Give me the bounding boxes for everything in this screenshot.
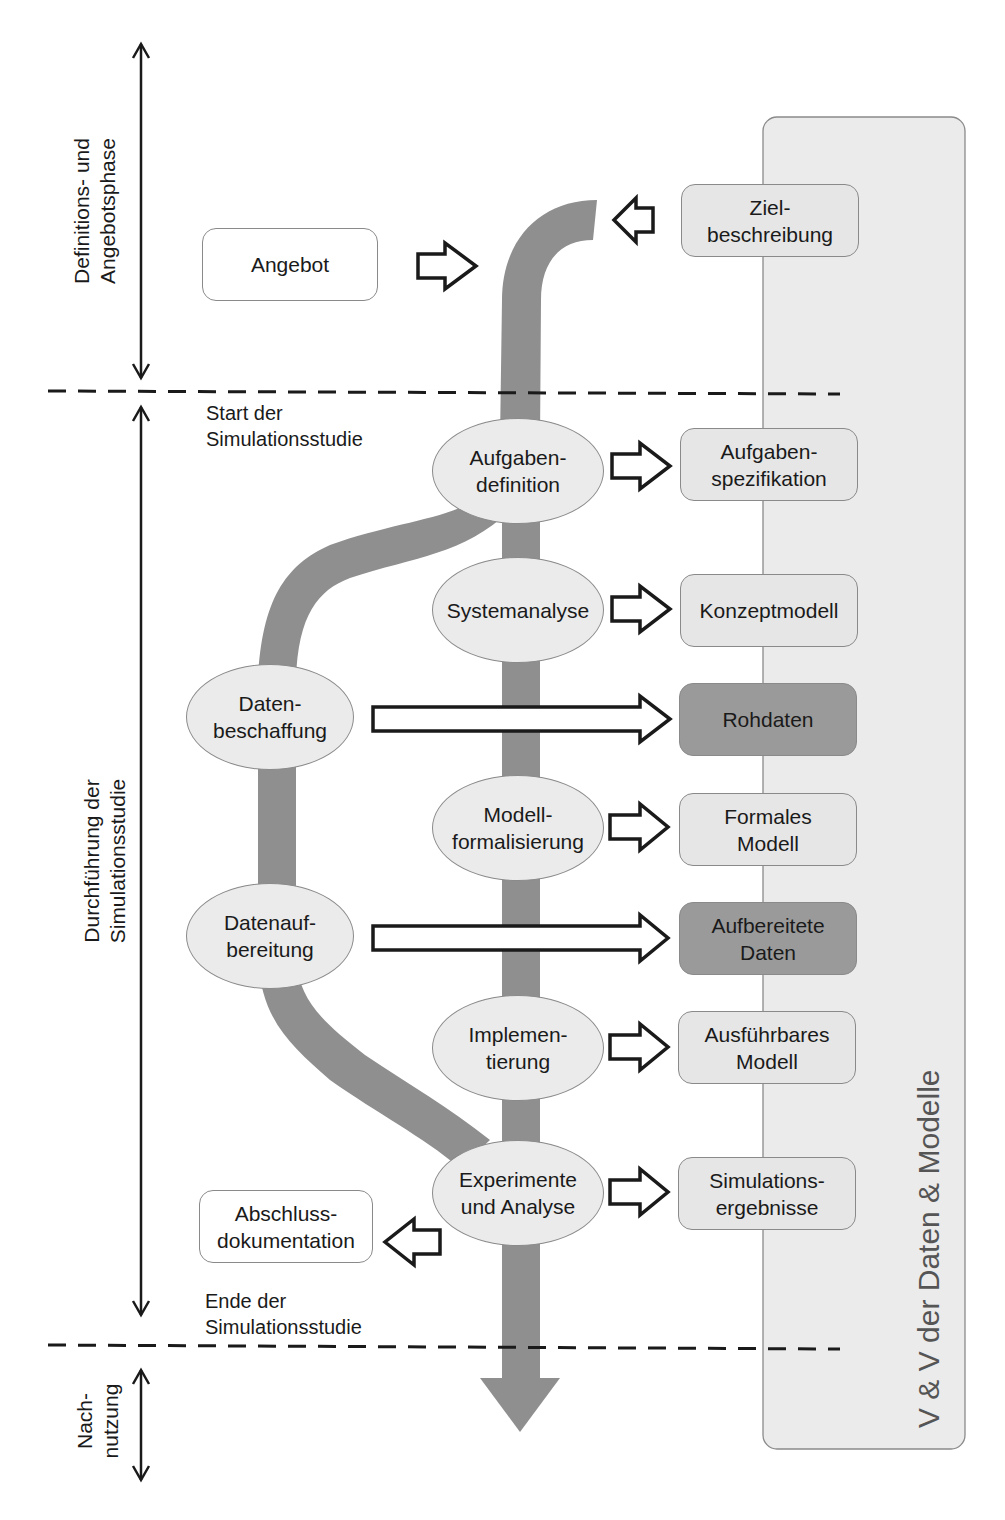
step-modellformalisierung: Modell- formalisierung xyxy=(432,775,604,881)
milestone-start: Start der Simulationsstudie xyxy=(206,400,363,452)
phase-arrow-definition xyxy=(133,44,149,378)
phase-arrow-execution xyxy=(133,407,149,1315)
main-flow-arrowhead xyxy=(480,1378,560,1432)
step-aufgabendefinition: Aufgaben- definition xyxy=(432,418,604,524)
phase-separator-top xyxy=(48,391,840,394)
vv-panel-label: V & V der Daten & Modelle xyxy=(912,1028,948,1428)
arrow-modellformalisierung xyxy=(610,804,668,850)
step-datenbeschaffung: Daten- beschaffung xyxy=(186,664,354,770)
result-rohdaten: Rohdaten xyxy=(679,683,857,756)
main-flow-top-curve xyxy=(500,200,597,440)
step-implementierung: Implemen- tierung xyxy=(432,995,604,1101)
step-systemanalyse: Systemanalyse xyxy=(432,557,604,663)
phase-label-nachnutzung: Nach- nutzung xyxy=(72,1371,124,1471)
milestone-end: Ende der Simulationsstudie xyxy=(205,1288,362,1340)
box-angebot: Angebot xyxy=(202,228,378,301)
arrow-aufgabendefinition xyxy=(612,443,670,489)
result-aufgabenspezifikation: Aufgaben- spezifikation xyxy=(680,428,858,501)
phase-label-execution: Durchführung der Simulationsstudie xyxy=(79,751,131,971)
arrow-experimente xyxy=(610,1169,668,1215)
result-simulationsergebnisse: Simulations- ergebnisse xyxy=(678,1157,856,1230)
box-zielbeschreibung: Ziel- beschreibung xyxy=(681,184,859,257)
arrow-ziel-to-flow xyxy=(614,198,653,242)
phase-separator-bottom xyxy=(48,1345,840,1349)
phase-arrow-nachnutzung xyxy=(133,1370,149,1480)
step-datenaufbereitung: Datenauf- bereitung xyxy=(186,883,354,989)
box-abschlussdokumentation: Abschluss- dokumentation xyxy=(199,1190,373,1263)
step-experimente: Experimente und Analyse xyxy=(432,1140,604,1246)
arrow-systemanalyse xyxy=(612,586,670,632)
arrow-angebot-to-flow xyxy=(418,243,476,289)
arrow-implementierung xyxy=(610,1024,668,1070)
phase-label-definition: Definitions- und Angebotsphase xyxy=(69,111,121,311)
result-konzeptmodell: Konzeptmodell xyxy=(680,574,858,647)
result-aufbereitete-daten: Aufbereitete Daten xyxy=(679,902,857,975)
result-formales-modell: Formales Modell xyxy=(679,793,857,866)
arrow-abschluss xyxy=(385,1219,440,1265)
result-ausfuehrbares-modell: Ausführbares Modell xyxy=(678,1011,856,1084)
